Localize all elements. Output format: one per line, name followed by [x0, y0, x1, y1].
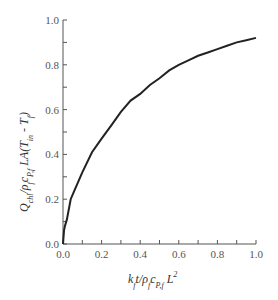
x-tick-label: 0.6	[172, 248, 186, 260]
chart: 0.00.20.40.60.81.00.00.20.40.60.81.0 kft…	[0, 0, 278, 300]
x-tick-label: 0.8	[211, 248, 225, 260]
y-tick-label: 0.0	[45, 238, 59, 250]
x-tick-label: 0.2	[95, 248, 109, 260]
y-tick-label: 0.8	[45, 59, 59, 71]
x-tick-label: 1.0	[249, 248, 263, 260]
y-tick-label: 1.0	[45, 14, 59, 26]
x-axis-label: kft/ρfcP,f L2	[128, 270, 177, 290]
y-axis-label: Qchl/ρfcP,f LA(Tin - Tf)	[17, 112, 35, 212]
y-tick-label: 0.2	[45, 193, 59, 205]
x-tick-label: 0.4	[133, 248, 147, 260]
y-tick-label: 0.4	[45, 148, 59, 160]
tick-labels: 0.00.20.40.60.81.00.00.20.40.60.81.0	[45, 14, 263, 260]
axis-ticks	[63, 20, 256, 244]
y-tick-label: 0.6	[45, 104, 59, 116]
data-line	[63, 38, 256, 244]
